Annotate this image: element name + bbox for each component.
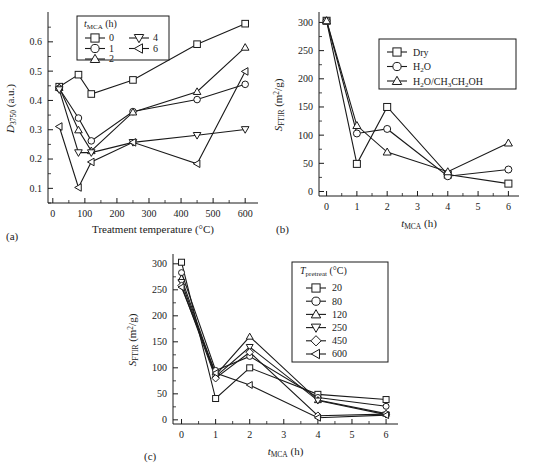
series-line-6 xyxy=(59,71,245,187)
chart-a-svg: 0.10.20.30.40.50.60100200300400500600D37… xyxy=(0,0,272,248)
y-tick-label-c: 250 xyxy=(152,284,167,295)
chart-c-svg: 0501001502002503000123456SFTIR (m2/g)tMC… xyxy=(120,244,420,474)
y-tick-label-b: 100 xyxy=(298,130,313,141)
y-tick-label-c: 0 xyxy=(162,414,167,425)
data-point-0-600 xyxy=(242,20,249,27)
y-tick-label-a: 0.5 xyxy=(30,66,43,77)
data-point-80-6 xyxy=(383,403,389,409)
y-tick-label-a: 0.6 xyxy=(30,36,43,47)
y-tick-label-c: 150 xyxy=(152,336,167,347)
x-axis-label-b: tMCA (h) xyxy=(401,217,437,231)
svg-text:tMCA (h): tMCA (h) xyxy=(401,217,437,231)
legend-label-1: 1 xyxy=(109,43,114,54)
x-tick-label-b: 0 xyxy=(324,201,329,212)
y-tick-label-c: 300 xyxy=(152,258,167,269)
x-tick-label-c: 2 xyxy=(247,429,252,440)
y-tick-label-c: 50 xyxy=(157,388,167,399)
data-point-1-600 xyxy=(242,81,249,88)
legend-square-icon xyxy=(91,34,99,42)
data-point-120-2 xyxy=(246,333,253,339)
data-point-H2O-6 xyxy=(505,166,512,173)
x-tick-label-b: 2 xyxy=(385,201,390,212)
y-axis-label-c: SFTIR (m2/g) xyxy=(126,313,140,366)
svg-text:tMCA (h): tMCA (h) xyxy=(268,445,304,459)
legend-b: DryH2OH2O/CH3CH2OH xyxy=(379,39,516,89)
y-tick-label-b: 200 xyxy=(298,73,313,84)
data-point-Dry-1 xyxy=(353,160,360,167)
x-axis-label-a: Treatment temperature (°C) xyxy=(92,223,214,236)
legend-a: tMCA (h)01246 xyxy=(77,16,169,64)
data-point-20-6 xyxy=(383,397,389,403)
data-point-Dry-2 xyxy=(384,103,391,110)
legend-circle-icon xyxy=(312,297,320,305)
x-tick-label-a: 200 xyxy=(109,208,124,219)
x-tick-label-c: 5 xyxy=(349,429,354,440)
data-point-Dry-6 xyxy=(505,180,512,187)
data-point-0-450 xyxy=(194,41,201,48)
panel-label-a: (a) xyxy=(6,230,19,243)
y-tick-label-a: 0.1 xyxy=(30,183,43,194)
legend-label-450: 450 xyxy=(332,335,347,346)
y-tick-label-c: 100 xyxy=(152,362,167,373)
data-point-20-1 xyxy=(213,396,219,402)
data-point-1-450 xyxy=(194,96,201,103)
x-axis-label-c: tMCA (h) xyxy=(268,445,304,459)
y-tick-label-a: 0.2 xyxy=(30,153,43,164)
y-tick-label-a: 0.3 xyxy=(30,124,43,135)
x-tick-label-c: 0 xyxy=(179,429,184,440)
data-point-1-80 xyxy=(75,115,82,122)
x-tick-label-c: 1 xyxy=(213,429,218,440)
legend-square-icon xyxy=(393,48,401,56)
data-point-6-600 xyxy=(241,68,248,76)
data-point-2-80 xyxy=(75,126,83,133)
data-point-H2O-1 xyxy=(353,130,360,137)
data-point-6-20 xyxy=(55,123,62,131)
y-axis-label-a: D3750 (a.u.) xyxy=(4,84,18,134)
data-point-0-80 xyxy=(75,71,82,78)
data-point-H2O/CH3CH2OH-6 xyxy=(504,139,512,146)
legend-label-Dry: Dry xyxy=(413,47,429,58)
data-point-6-120 xyxy=(87,158,94,166)
chart-b-svg: 0501001502002503000123456SFTIR (m2/g)tMC… xyxy=(266,0,533,248)
x-tick-label-a: 300 xyxy=(141,208,156,219)
y-tick-label-b: 300 xyxy=(298,17,313,28)
y-tick-label-c: 200 xyxy=(152,310,167,321)
x-tick-label-a: 400 xyxy=(174,208,189,219)
legend-label-4: 4 xyxy=(153,32,158,43)
svg-text:SFTIR (m2/g): SFTIR (m2/g) xyxy=(272,78,286,131)
y-tick-label-b: 0 xyxy=(308,186,313,197)
legend-square-icon xyxy=(312,284,320,292)
x-tick-label-b: 5 xyxy=(476,201,481,212)
chart-panel-a: 0.10.20.30.40.50.60100200300400500600D37… xyxy=(0,0,272,248)
y-axis-label-b: SFTIR (m2/g) xyxy=(272,78,286,131)
x-tick-label-b: 6 xyxy=(506,201,511,212)
legend-label-80: 80 xyxy=(332,296,342,307)
x-tick-label-a: 500 xyxy=(206,208,221,219)
data-point-1-120 xyxy=(88,138,95,145)
legend-label-20: 20 xyxy=(332,282,342,293)
legend-circle-icon xyxy=(91,44,99,52)
x-tick-label-c: 4 xyxy=(315,429,320,440)
svg-text:Treatment temperature (°C): Treatment temperature (°C) xyxy=(92,223,214,236)
legend-c: Tpretreat (°C)2080120250450600 xyxy=(292,262,388,362)
chart-panel-c: 0501001502002503000123456SFTIR (m2/g)tMC… xyxy=(120,244,420,474)
data-point-2-600 xyxy=(241,44,249,51)
x-tick-label-a: 600 xyxy=(238,208,253,219)
legend-label-2: 2 xyxy=(109,53,114,64)
chart-panel-b: 0501001502002503000123456SFTIR (m2/g)tMC… xyxy=(266,0,533,248)
svg-text:SFTIR (m2/g): SFTIR (m2/g) xyxy=(126,313,140,366)
panel-label-b: (b) xyxy=(276,223,289,236)
legend-label-0: 0 xyxy=(109,32,114,43)
x-tick-label-b: 3 xyxy=(415,201,420,212)
data-point-600-2 xyxy=(246,382,252,389)
x-tick-label-a: 0 xyxy=(50,208,55,219)
y-tick-label-b: 50 xyxy=(303,158,313,169)
legend-label-6: 6 xyxy=(153,43,158,54)
y-tick-label-a: 0.4 xyxy=(30,95,43,106)
x-tick-label-b: 1 xyxy=(354,201,359,212)
data-point-20-2 xyxy=(247,365,253,371)
svg-text:D3750 (a.u.): D3750 (a.u.) xyxy=(4,84,18,134)
data-point-6-450 xyxy=(193,160,200,168)
legend-label-120: 120 xyxy=(332,309,347,320)
data-point-20-0 xyxy=(179,259,185,265)
